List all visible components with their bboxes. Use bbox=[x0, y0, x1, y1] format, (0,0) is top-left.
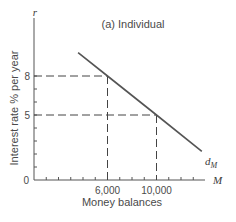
series-group bbox=[78, 53, 202, 152]
x-tick-label: 6,000 bbox=[95, 185, 120, 196]
x-axis-label: Money balances bbox=[82, 196, 163, 208]
demand-curve-d_M bbox=[78, 53, 202, 152]
y-axis-label: Interest rate % per year bbox=[8, 50, 20, 165]
x-tick-label: 10,000 bbox=[141, 185, 172, 196]
y-axis-symbol: r bbox=[33, 6, 38, 18]
chart: (a) Individual r M Interest rate % per y… bbox=[0, 0, 236, 222]
series-label: dM bbox=[205, 155, 219, 170]
chart-title: (a) Individual bbox=[102, 18, 165, 30]
axes bbox=[34, 18, 205, 180]
y-tick-label: 5 bbox=[24, 110, 30, 121]
y-tick-label: 8 bbox=[24, 71, 30, 82]
x-axis-symbol: M bbox=[212, 174, 223, 186]
guide-lines bbox=[34, 76, 157, 180]
origin-label: 0 bbox=[23, 175, 29, 186]
